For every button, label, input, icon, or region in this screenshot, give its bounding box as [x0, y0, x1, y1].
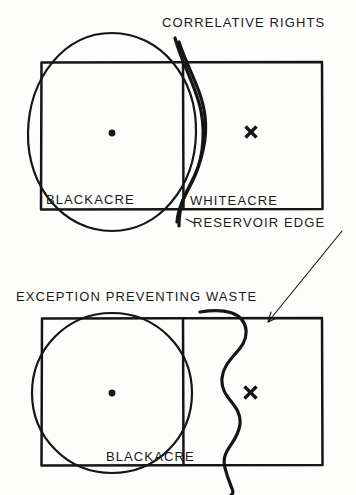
- panel2-label-blackacre: BLACKACRE: [106, 449, 195, 464]
- panel1-label-whiteacre: WHITEACRE: [190, 193, 278, 208]
- panel2-heading: EXCEPTION PREVENTING WASTE: [16, 289, 257, 304]
- hand-drawn-diagram: CORRELATIVE RIGHTS BLACKACRE WHITEACRE R…: [0, 0, 356, 495]
- panel2-reservoir-wavy-boundary: [200, 311, 246, 495]
- panel1-heading: CORRELATIVE RIGHTS: [162, 15, 325, 30]
- panel1-label-blackacre: BLACKACRE: [46, 192, 135, 207]
- panel1-well-x-marker: [246, 127, 257, 138]
- leader-arrow-line: [268, 231, 342, 322]
- panel2-well-x-marker: [245, 387, 257, 399]
- panel2-well-dot-marker: [109, 390, 116, 397]
- panel1-label-reservoir-edge: RESERVOIR EDGE: [193, 215, 325, 230]
- figure-root: CORRELATIVE RIGHTS BLACKACRE WHITEACRE R…: [0, 0, 356, 495]
- panel2-property-divider: [183, 319, 184, 466]
- panel1-well-dot-marker: [109, 130, 116, 137]
